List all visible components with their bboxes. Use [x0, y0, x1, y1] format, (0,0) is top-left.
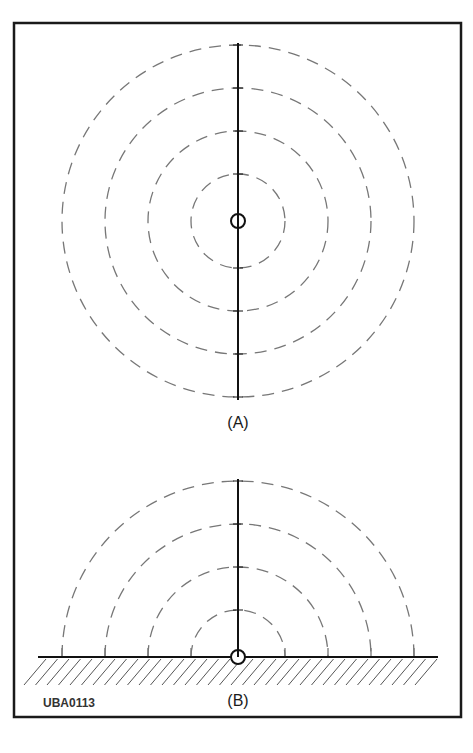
- ground-hatch: [254, 659, 276, 685]
- panel-b-label: (B): [227, 692, 248, 710]
- ground-hatch: [197, 659, 219, 685]
- ground-hatch: [139, 659, 161, 685]
- ground-hatch: [47, 659, 69, 685]
- panel-a: [62, 43, 414, 400]
- ground-hatch: [208, 659, 230, 685]
- ground-hatch: [369, 659, 391, 685]
- ground-hatch: [70, 659, 92, 685]
- ground-hatch: [404, 659, 426, 685]
- ground-hatch: [36, 659, 58, 685]
- ground-hatch: [82, 659, 104, 685]
- ground-hatch: [346, 659, 368, 685]
- diagram-canvas: [0, 0, 473, 753]
- ground-hatch: [105, 659, 127, 685]
- ground-hatch: [128, 659, 150, 685]
- ground-hatch: [93, 659, 115, 685]
- ground-hatch: [392, 659, 414, 685]
- ground-hatch: [323, 659, 345, 685]
- ground-hatch: [185, 659, 207, 685]
- ground-hatch: [151, 659, 173, 685]
- ground-hatch: [116, 659, 138, 685]
- ground-hatch: [415, 659, 437, 685]
- ground-hatch: [243, 659, 265, 685]
- panel-a-label: (A): [227, 414, 248, 432]
- ground-hatch: [358, 659, 380, 685]
- figure-code-label: UBA0113: [43, 696, 95, 710]
- ground-hatch: [24, 659, 46, 685]
- ground-hatch: [335, 659, 357, 685]
- ground-hatch: [266, 659, 288, 685]
- ground-hatch: [174, 659, 196, 685]
- ground-hatch: [289, 659, 311, 685]
- ground-hatch: [381, 659, 403, 685]
- ground-hatch: [277, 659, 299, 685]
- ground-hatch: [300, 659, 322, 685]
- ground-hatch: [312, 659, 334, 685]
- panel-b: [24, 479, 438, 685]
- ground-hatch: [162, 659, 184, 685]
- ground-hatch: [59, 659, 81, 685]
